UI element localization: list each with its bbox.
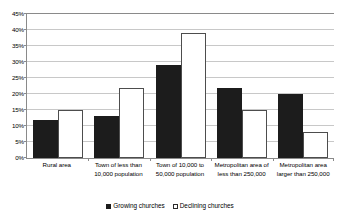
legend-item: Growing churches [106,203,165,209]
bar-group [273,14,334,158]
y-tick-label: 45% [12,11,24,17]
y-tick-label: 15% [12,107,24,113]
bar-declining [119,88,144,158]
y-tick-label: 20% [12,91,24,97]
bar-growing [278,94,303,158]
y-axis-labels: 0%5%10%15%20%25%30%35%40%45% [0,0,24,175]
bar-group [27,14,88,158]
x-axis-category-label: Metropolitan area of less than 250,000 [211,161,273,178]
bar-growing [33,120,58,158]
bars-layer [27,14,334,158]
x-axis-category-label: Metropolitan area larger than 250,000 [272,161,334,178]
y-tick-label: 5% [15,139,24,145]
legend-label: Declining churches [180,203,234,209]
bar-declining [242,110,267,158]
bar-growing [94,116,119,158]
x-axis-category-label: Rural area [26,161,88,178]
bar-declining [58,110,83,158]
bar-group [150,14,211,158]
y-tick-label: 40% [12,27,24,33]
y-tick-label: 10% [12,123,24,129]
legend-item: Declining churches [173,203,234,209]
plot-wrapper: 0%5%10%15%20%25%30%35%40%45% [0,0,340,175]
bar-group [211,14,272,158]
bar-growing [217,88,242,158]
chart-legend: Growing churchesDeclining churches [0,203,340,209]
y-tick-label: 35% [12,43,24,49]
x-axis-category-label: Town of less than 10,000 population [88,161,150,178]
x-axis-category-label: Town of 10,000 to 50,000 population [149,161,211,178]
bar-group [88,14,149,158]
plot-area [26,14,334,159]
y-tick-label: 30% [12,59,24,65]
bar-declining [303,132,328,158]
bar-growing [156,65,181,158]
legend-swatch-declining [173,204,178,209]
legend-swatch-growing [106,204,111,209]
bar-declining [181,33,206,158]
bar-chart: 0%5%10%15%20%25%30%35%40%45% Rural areaT… [0,0,340,220]
y-tick-label: 0% [15,155,24,161]
y-tick-label: 25% [12,75,24,81]
x-axis-labels: Rural areaTown of less than 10,000 popul… [26,161,334,178]
legend-label: Growing churches [113,203,165,209]
